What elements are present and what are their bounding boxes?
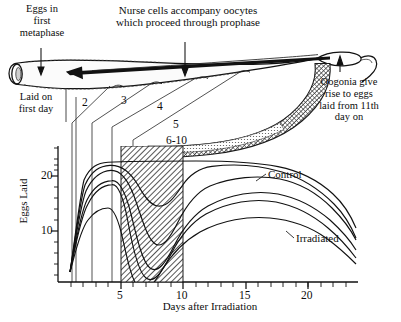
stage-number-6-10: 6-10 bbox=[166, 134, 187, 146]
figure-canvas bbox=[0, 0, 401, 322]
annotation-laid-first-day: Laid on first day bbox=[4, 91, 68, 115]
x-tick-5: 5 bbox=[117, 289, 123, 301]
curve-label-control: Control bbox=[268, 168, 302, 180]
annotation-nurse-cells: Nurse cells accompany oocytes which proc… bbox=[88, 4, 288, 29]
stage-number-4: 4 bbox=[157, 100, 163, 112]
ovariole-egg-laying-figure: Eggs in first metaphase Nurse cells acco… bbox=[0, 0, 401, 322]
x-axis-label: Days after Irradiation bbox=[110, 300, 310, 312]
stage-number-3: 3 bbox=[121, 94, 127, 106]
shaded-region-6-10 bbox=[121, 146, 183, 282]
annotation-oogonia: Oogonia give rise to eggs laid from 11th… bbox=[300, 76, 398, 123]
x-tick-10: 10 bbox=[176, 289, 188, 301]
stage-number-5: 5 bbox=[173, 118, 179, 130]
chart-curves bbox=[70, 161, 356, 290]
y-axis-label: Eggs Laid bbox=[17, 166, 29, 236]
x-tick-20: 20 bbox=[301, 289, 313, 301]
curve-label-irradiated: Irradiated bbox=[296, 232, 339, 244]
stage-number-2: 2 bbox=[82, 96, 88, 108]
annotation-eggs-first-metaphase: Eggs in first metaphase bbox=[6, 3, 78, 38]
curve-label-leaders bbox=[256, 174, 294, 238]
y-tick-20: 20 bbox=[41, 169, 53, 181]
x-tick-15: 15 bbox=[239, 289, 251, 301]
y-tick-10: 10 bbox=[41, 224, 53, 236]
chart-axes bbox=[51, 146, 358, 289]
